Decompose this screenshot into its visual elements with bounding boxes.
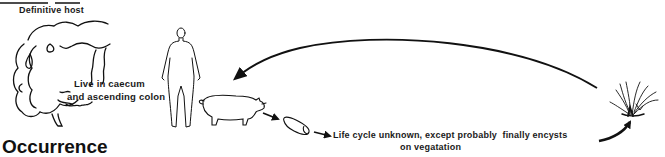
definitive-host-label: Definitive host xyxy=(19,5,84,15)
life-cycle-text-line2: on vegatation xyxy=(400,142,461,152)
occurrence-heading: Occurrence xyxy=(2,136,108,157)
arrow-to-vegetation xyxy=(599,122,630,141)
return-arrow xyxy=(236,40,597,88)
pig-icon xyxy=(199,95,266,125)
cyst-icon xyxy=(284,117,309,134)
life-cycle-text-line1: Life cycle unknown, except probably fina… xyxy=(333,130,567,140)
habitat-text-line1: Live in caecum xyxy=(74,78,145,89)
habitat-text-line2: and ascending colon xyxy=(67,91,165,102)
grass-plant-icon xyxy=(610,82,658,116)
arrow-pig-to-cyst xyxy=(263,113,278,119)
human-figure-icon xyxy=(162,28,200,127)
arrow-cyst-to-text xyxy=(314,132,330,136)
large-intestine-icon xyxy=(14,21,111,126)
